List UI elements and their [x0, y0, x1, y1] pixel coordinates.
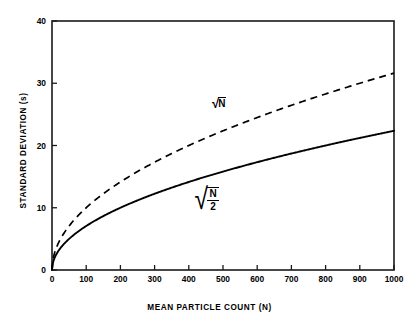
fraction-n-over-2: N 2 — [207, 187, 218, 212]
radicand-n: N — [218, 97, 226, 109]
radical-sign-large: √ — [194, 186, 208, 212]
y-tick-label: 20 — [16, 141, 46, 151]
y-tick-label: 0 — [16, 265, 46, 275]
annotation-sqrt-n-over-2: √ N 2 — [193, 186, 219, 212]
fraction-numerator: N — [207, 189, 218, 200]
y-tick-label: 40 — [16, 16, 46, 26]
y-tick-label: 10 — [16, 203, 46, 213]
chart-background — [0, 0, 419, 321]
annotation-sqrt-n: √N — [212, 97, 226, 110]
x-axis-title: MEAN PARTICLE COUNT (N) — [0, 303, 419, 312]
x-tick-label: 1000 — [374, 274, 414, 284]
fraction-denominator: 2 — [207, 200, 218, 212]
plot-canvas — [0, 0, 419, 321]
chart-figure: MEAN PARTICLE COUNT (N) STANDARD DEVIATI… — [0, 0, 419, 321]
y-tick-label: 30 — [16, 78, 46, 88]
